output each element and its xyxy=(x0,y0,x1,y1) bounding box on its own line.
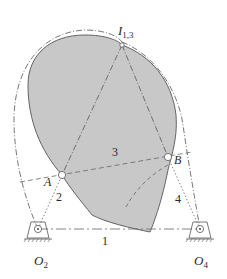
label-A: A xyxy=(43,175,52,189)
ground-pivot-O4 xyxy=(186,222,214,242)
label-link-3: 3 xyxy=(112,145,118,159)
label-O4: O4 xyxy=(194,253,208,270)
joint-A xyxy=(58,171,65,178)
label-B: B xyxy=(174,153,182,167)
instant-center-I13 xyxy=(120,43,124,47)
label-I13: I1,3 xyxy=(117,23,134,40)
label-link-4: 4 xyxy=(175,192,181,206)
ground-pivot-O2 xyxy=(24,222,52,242)
four-bar-linkage-diagram: I1,3 3 A B 2 4 1 O2 O4 xyxy=(0,0,227,279)
label-link-2: 2 xyxy=(56,190,62,204)
joint-B xyxy=(164,153,171,160)
label-O2: O2 xyxy=(34,253,48,270)
label-link-1: 1 xyxy=(102,234,108,248)
rocker-link-4 xyxy=(168,157,200,229)
